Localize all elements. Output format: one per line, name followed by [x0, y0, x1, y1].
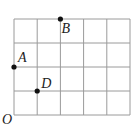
- point-b-label: B: [61, 21, 70, 36]
- point-a-marker: [11, 64, 16, 69]
- points: ABD: [11, 16, 70, 93]
- grid-lines: [14, 19, 130, 115]
- point-d-marker: [35, 88, 40, 93]
- grid-diagram: ABD O: [0, 0, 138, 126]
- point-a-label: A: [17, 50, 27, 65]
- point-d-label: D: [40, 76, 51, 91]
- origin-label: O: [2, 112, 12, 126]
